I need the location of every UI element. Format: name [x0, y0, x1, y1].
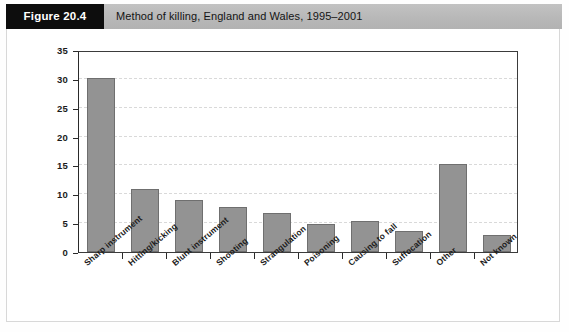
y-tick-mark	[73, 166, 78, 167]
y-tick-label: 10	[28, 189, 68, 200]
y-tick-mark	[73, 109, 78, 110]
chart: 05101520253035Sharp instrumentHitting/ki…	[0, 0, 569, 332]
y-tick-label: 0	[28, 247, 68, 258]
y-tick-label: 30	[28, 74, 68, 85]
x-tick-mark	[298, 253, 299, 259]
bar	[439, 164, 466, 252]
y-tick-mark	[73, 138, 78, 139]
y-tick-mark	[73, 253, 78, 254]
y-tick-label: 35	[28, 45, 68, 56]
x-tick-mark	[386, 253, 387, 259]
plot-area	[78, 51, 518, 253]
y-tick-mark	[73, 80, 78, 81]
y-tick-label: 15	[28, 160, 68, 171]
x-tick-mark	[210, 253, 211, 259]
figure-container: Figure 20.4 Method of killing, England a…	[0, 0, 569, 332]
x-tick-mark	[166, 253, 167, 259]
y-tick-mark	[73, 51, 78, 52]
x-tick-mark	[122, 253, 123, 259]
y-tick-label: 20	[28, 132, 68, 143]
x-tick-mark	[474, 253, 475, 259]
x-tick-mark	[342, 253, 343, 259]
y-tick-mark	[73, 224, 78, 225]
y-tick-mark	[73, 195, 78, 196]
bar-series	[79, 52, 517, 252]
y-tick-label: 5	[28, 218, 68, 229]
x-tick-mark	[254, 253, 255, 259]
bar	[87, 78, 114, 252]
x-tick-mark	[430, 253, 431, 259]
y-tick-label: 25	[28, 103, 68, 114]
